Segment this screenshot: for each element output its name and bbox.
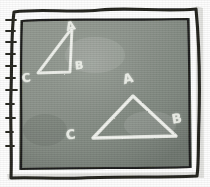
board-canvas	[0, 0, 210, 187]
chalkboard-illustration: A B C A B C	[0, 0, 210, 187]
